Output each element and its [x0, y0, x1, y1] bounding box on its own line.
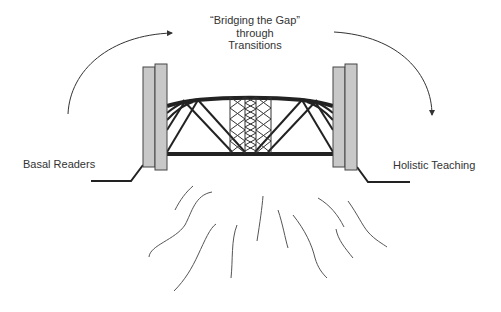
right-pillar	[333, 64, 357, 170]
label-basal-readers: Basal Readers	[23, 158, 95, 171]
title-line-1: “Bridging the Gap”	[195, 14, 315, 27]
title-line-2: through	[195, 27, 315, 40]
wavy-lines-icon	[149, 186, 387, 291]
left-ground-line	[91, 165, 143, 181]
left-pillar	[143, 64, 167, 170]
bridge-icon	[167, 97, 333, 154]
diagram-title: “Bridging the Gap” through Transitions	[195, 14, 315, 52]
title-line-3: Transitions	[195, 39, 315, 52]
label-holistic-teaching: Holistic Teaching	[393, 159, 475, 172]
